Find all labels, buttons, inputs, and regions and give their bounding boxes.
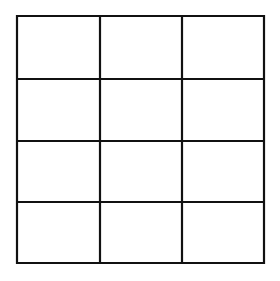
grid-cell-r2-c3: [182, 79, 264, 141]
grid-cell-r4-c1: [17, 202, 100, 263]
grid-diagram: [16, 15, 265, 264]
grid-cell-r3-c1: [17, 141, 100, 202]
grid-cell-r4-c3: [182, 202, 264, 263]
grid-cell-r4-c2: [100, 202, 182, 263]
grid-cell-r2-c1: [17, 79, 100, 141]
grid-cell-r1-c2: [100, 16, 182, 79]
grid-cell-r1-c1: [17, 16, 100, 79]
grid-cell-r1-c3: [182, 16, 264, 79]
grid-cell-r2-c2: [100, 79, 182, 141]
grid-lines: [0, 0, 280, 281]
grid-cell-r3-c3: [182, 141, 264, 202]
grid-cell-r3-c2: [100, 141, 182, 202]
